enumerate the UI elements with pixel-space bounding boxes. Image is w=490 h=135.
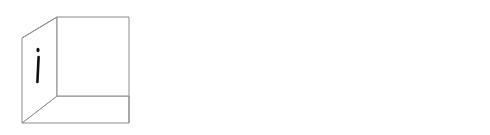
cube-left[interactable] bbox=[22, 17, 129, 123]
cube-left-face-front[interactable] bbox=[57, 17, 129, 96]
cube-sequence-diagram bbox=[0, 0, 490, 135]
figure-canvas: i left bbox=[0, 0, 490, 135]
